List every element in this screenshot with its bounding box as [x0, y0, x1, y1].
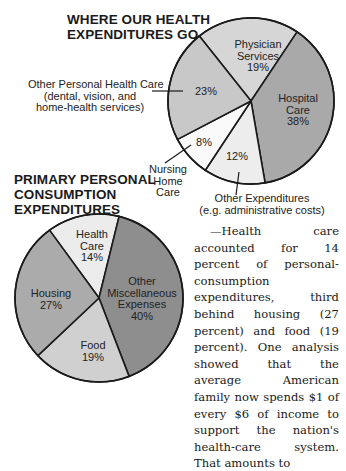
article-text-column: —Health care accounted for 14 percent of…	[194, 223, 339, 471]
label-text: Other Personal Health Care	[28, 79, 152, 91]
label-other-expenditures-pct: 12%	[222, 151, 252, 163]
label-physician-services: Physician Services 19%	[228, 39, 288, 74]
label-text: Other	[107, 276, 177, 288]
label-value: 12%	[222, 151, 252, 163]
label-text: Expenses	[107, 299, 177, 311]
label-other-personal-pct: 23%	[193, 86, 219, 98]
label-hospital-care: Hospital Care 38%	[270, 93, 326, 128]
label-housing: Housing 27%	[29, 288, 73, 311]
label-value: 19%	[76, 352, 110, 364]
label-text: Physician	[228, 39, 288, 51]
label-text: Care	[148, 187, 188, 199]
callout-other-personal-health-care: Other Personal Health Care (dental, visi…	[28, 79, 152, 114]
callout-other-expenditures: Other Expenditures (e.g. administrative …	[198, 193, 326, 216]
label-other-miscellaneous: Other Miscellaneous Expenses 40%	[107, 276, 177, 322]
label-nursing-pct: 8%	[193, 137, 215, 149]
label-value: 23%	[193, 86, 219, 98]
label-text: Other Expenditures	[198, 193, 326, 205]
label-value: 8%	[193, 137, 215, 149]
label-value: 40%	[107, 311, 177, 323]
article-paragraph: —Health care accounted for 14 percent of…	[194, 223, 339, 471]
label-value: 19%	[228, 62, 288, 74]
label-value: 14%	[72, 252, 112, 264]
label-text: Food	[76, 340, 110, 352]
label-text: (e.g. administrative costs)	[198, 205, 326, 217]
label-food: Food 19%	[76, 340, 110, 363]
label-value: 38%	[270, 116, 326, 128]
label-text: Hospital	[270, 93, 326, 105]
label-text: Nursing	[148, 164, 188, 176]
label-text: home-health services)	[28, 102, 152, 114]
label-text: Housing	[29, 288, 73, 300]
label-text: 27%	[29, 300, 73, 312]
label-text: Health	[72, 229, 112, 241]
callout-nursing-home-care: Nursing Home Care	[148, 164, 188, 199]
label-health-care: Health Care 14%	[72, 229, 112, 264]
